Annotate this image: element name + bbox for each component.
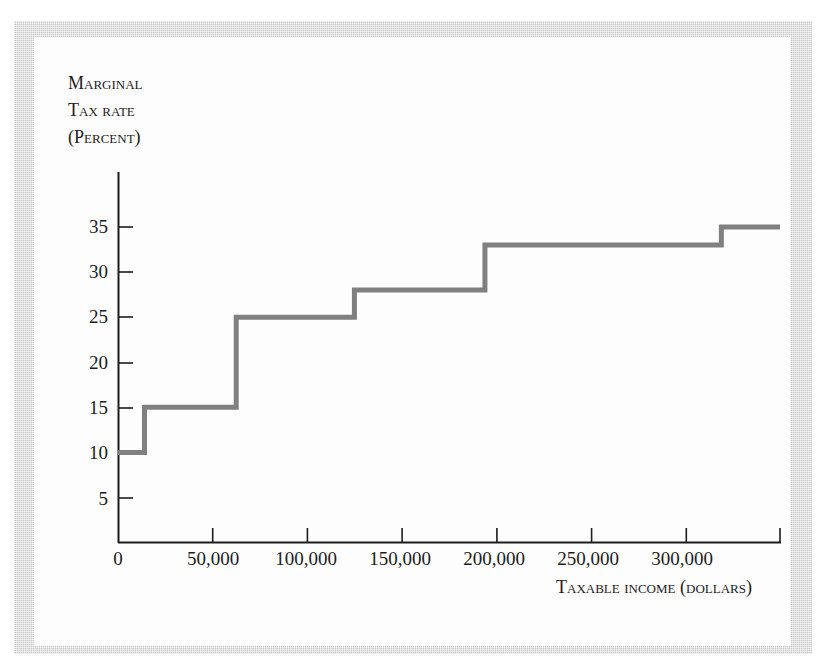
chart-plot-area (0, 0, 836, 671)
marginal-tax-rate-step-line (118, 227, 780, 452)
y-tick-marks (118, 227, 133, 498)
x-tick-marks (213, 528, 780, 542)
figure-frame: Marginal tax rate (percent) Taxable inco… (0, 0, 836, 671)
